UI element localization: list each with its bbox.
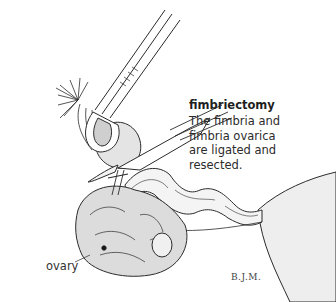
caption-line: resected. bbox=[189, 158, 329, 173]
caption-text: The fimbria and fimbria ovarica are liga… bbox=[189, 114, 329, 172]
figure-caption: fimbriectomy The fimbria and fimbria ova… bbox=[189, 98, 329, 172]
ovary-label: ovary bbox=[46, 259, 78, 273]
caption-line: The fimbria and bbox=[189, 114, 329, 129]
caption-line: fimbria ovarica bbox=[189, 129, 329, 144]
caption-line: are ligated and bbox=[189, 143, 329, 158]
figure-title: fimbriectomy bbox=[189, 98, 329, 112]
artist-signature: B.J.M. bbox=[231, 272, 261, 282]
uterus-shape bbox=[258, 172, 336, 302]
